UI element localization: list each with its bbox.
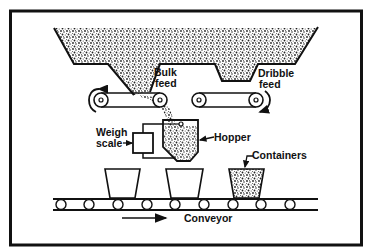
weigh-assembly — [133, 120, 198, 161]
container-filled — [229, 169, 264, 198]
containers — [105, 169, 264, 198]
label-hopper: Hopper — [214, 131, 251, 143]
hopper-leader — [200, 137, 214, 140]
container-empty-1 — [105, 169, 140, 198]
bulk-feed-belt — [89, 89, 167, 112]
label-conveyor: Conveyor — [184, 212, 232, 224]
diagram-canvas: Bulk feed Dribble feed Weigh scale Hoppe… — [0, 0, 372, 252]
container-empty-2 — [166, 169, 203, 198]
dribble-feed-belt — [192, 91, 270, 112]
label-weigh-scale-2: scale — [96, 137, 122, 149]
weigh-hopper-fill — [164, 126, 197, 160]
hopper-pivot — [179, 122, 183, 126]
label-dribble-feed-2: feed — [259, 78, 281, 90]
weigh-scale-box — [133, 133, 153, 153]
label-containers: Containers — [252, 149, 307, 161]
label-bulk-feed-2: feed — [155, 77, 177, 89]
